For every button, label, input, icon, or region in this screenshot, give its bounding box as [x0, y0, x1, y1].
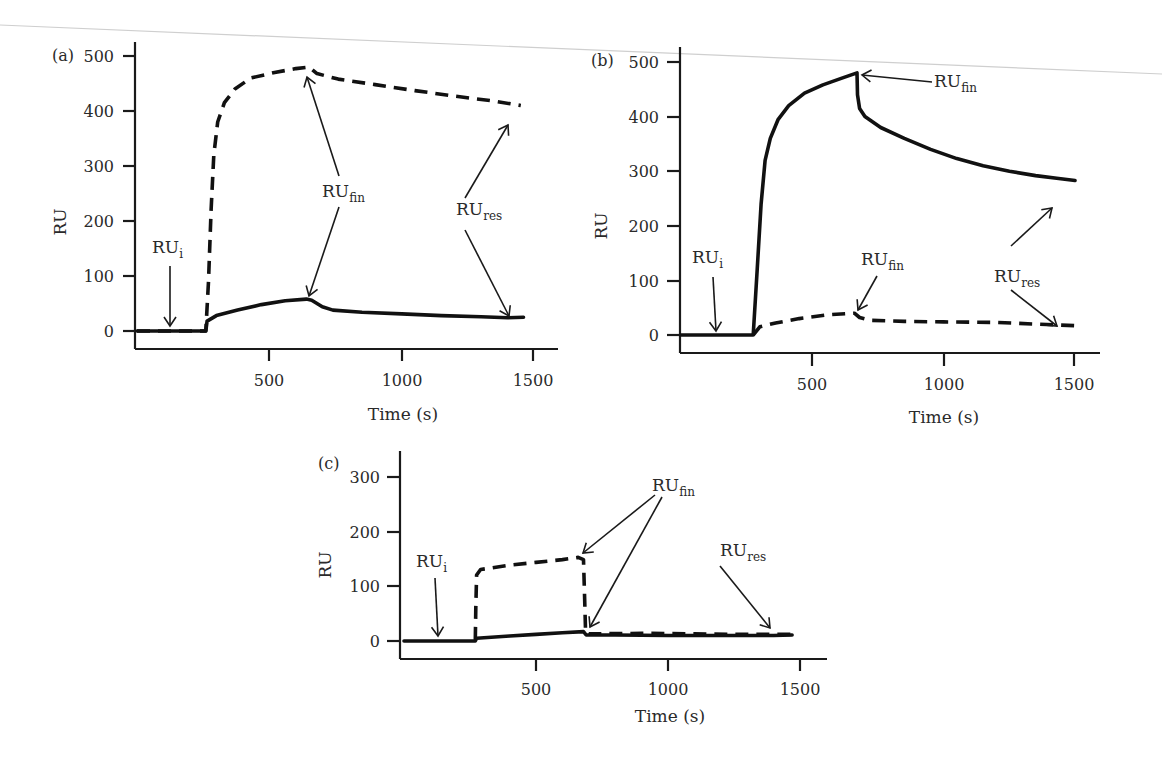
- annotation-ru-fin-a: RUfin: [307, 77, 365, 296]
- x-axis-title-b: Time (s): [909, 407, 979, 427]
- x-ticks-a: 500 1000 1500: [254, 349, 554, 390]
- arrow-icon: [858, 276, 877, 310]
- arrow-icon: [465, 230, 509, 316]
- panel-c: (c) 0 100 200 300 500 1000 1500 Time (s)…: [315, 451, 827, 726]
- arrow-icon: [309, 207, 339, 296]
- annotation-ru-i-a: RUi: [152, 237, 183, 326]
- arrow-icon: [307, 77, 339, 176]
- y-tick-label: 200: [83, 212, 114, 231]
- x-tick-label: 1500: [780, 680, 821, 699]
- arrow-icon: [435, 578, 438, 636]
- arrow-icon: [583, 495, 655, 553]
- y-axis-title-a: RU: [50, 208, 70, 235]
- y-tick-label: 400: [83, 102, 114, 121]
- annotation-ru-fin-top-b: RUfin: [862, 71, 977, 95]
- y-axis-title-b: RU: [591, 212, 611, 239]
- x-tick-label: 1500: [1054, 375, 1095, 394]
- arrow-icon: [1011, 208, 1052, 246]
- y-tick-label: 100: [628, 272, 659, 291]
- annotation-label: RUres: [994, 266, 1040, 290]
- y-tick-label: 100: [83, 267, 114, 286]
- arrow-icon: [713, 277, 716, 331]
- panel-label-a: (a): [52, 46, 74, 65]
- annotation-label: RUfin: [934, 71, 977, 95]
- arrow-icon: [720, 566, 770, 628]
- annotation-ru-i-b: RUi: [692, 247, 723, 331]
- annotation-label: RUfin: [322, 181, 365, 205]
- y-ticks-c: 0 100 200 300: [349, 468, 400, 651]
- y-tick-label: 300: [83, 157, 114, 176]
- x-tick-label: 500: [521, 680, 552, 699]
- annotation-label: RUres: [720, 540, 766, 564]
- annotation-label: RUi: [416, 551, 447, 575]
- x-axis-title-a: Time (s): [368, 404, 438, 424]
- y-tick-label: 500: [628, 53, 659, 72]
- annotation-ru-i-c: RUi: [416, 551, 447, 636]
- annotation-label: RUres: [456, 199, 502, 223]
- annotation-label: RUi: [692, 247, 723, 271]
- annotation-ru-res-a: RUres: [456, 125, 509, 316]
- annotation-label: RUfin: [861, 249, 904, 273]
- x-tick-label: 500: [797, 375, 828, 394]
- x-tick-label: 1000: [382, 371, 423, 390]
- panel-label-b: (b): [591, 51, 614, 70]
- y-tick-label: 500: [83, 47, 114, 66]
- arrow-icon: [1011, 290, 1057, 326]
- arrow-icon: [590, 497, 662, 627]
- x-tick-label: 1000: [924, 375, 965, 394]
- annotation-ru-res-b: RUres: [994, 208, 1057, 326]
- series-solid-a: [137, 299, 524, 331]
- series-dashed-c: [475, 557, 792, 640]
- figure-canvas: (a) 0 100 200 300 400 500 500 1000 1500: [0, 0, 1162, 763]
- x-ticks-c: 500 1000 1500: [521, 659, 821, 699]
- panel-a: (a) 0 100 200 300 400 500 500 1000 1500: [50, 42, 558, 424]
- panel-b: (b) 0 100 200 300 400 500 500 1000 1500 …: [591, 47, 1100, 427]
- scan-artifact-line: [0, 25, 1162, 74]
- y-tick-label: 400: [628, 108, 659, 127]
- x-tick-label: 1500: [513, 371, 554, 390]
- series-solid-b: [681, 73, 1075, 335]
- y-tick-label: 0: [649, 326, 659, 345]
- annotation-ru-res-c: RUres: [720, 540, 770, 628]
- annotation-label: RUi: [152, 237, 183, 261]
- y-tick-label: 0: [370, 632, 380, 651]
- arrow-icon: [465, 125, 508, 198]
- y-tick-label: 300: [628, 162, 659, 181]
- x-axis-title-c: Time (s): [635, 706, 705, 726]
- x-tick-label: 1000: [648, 680, 689, 699]
- y-tick-label: 300: [349, 468, 380, 487]
- x-ticks-b: 500 1000 1500: [797, 353, 1095, 394]
- y-tick-label: 200: [628, 217, 659, 236]
- annotation-ru-fin-c: RUfin: [583, 475, 695, 627]
- arrow-icon: [862, 75, 932, 82]
- annotation-ru-fin-bottom-b: RUfin: [858, 249, 904, 310]
- panel-label-c: (c): [318, 454, 339, 473]
- x-tick-label: 500: [254, 371, 285, 390]
- y-axis-title-c: RU: [315, 551, 335, 578]
- y-tick-label: 0: [104, 322, 114, 341]
- annotation-label: RUfin: [652, 475, 695, 499]
- y-tick-label: 100: [349, 577, 380, 596]
- y-tick-label: 200: [349, 523, 380, 542]
- y-ticks-b: 0 100 200 300 400 500: [628, 53, 680, 345]
- series-dashed-b: [753, 313, 1075, 335]
- y-ticks-a: 0 100 200 300 400 500: [83, 47, 135, 341]
